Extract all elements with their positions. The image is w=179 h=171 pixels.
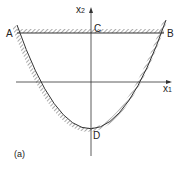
point-d-label: D: [93, 131, 100, 141]
point-c-label: C: [94, 24, 101, 34]
parabola-constraint: [17, 20, 166, 129]
feasible-region-diagram: [0, 0, 179, 171]
x1-axis-label: x1: [163, 84, 172, 94]
point-b-label: B: [167, 29, 174, 39]
constraint-hatch-top: [17, 29, 164, 33]
point-a-label: A: [6, 29, 13, 39]
parabola-hatch: [14, 21, 165, 130]
x2-arrow-icon: [89, 7, 93, 13]
panel-label: (a): [14, 150, 25, 159]
x2-axis-label: x2: [76, 5, 85, 15]
